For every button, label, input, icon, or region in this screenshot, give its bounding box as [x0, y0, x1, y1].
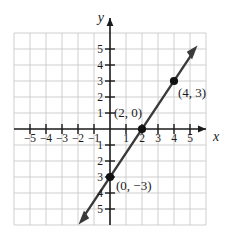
y-tick-label: 4	[97, 187, 103, 199]
y-tick-label: 3	[97, 171, 103, 183]
x-tick-label: 4	[171, 132, 177, 144]
x-tick-label: −3	[56, 132, 68, 144]
point-label-4-3: (4, 3)	[178, 85, 206, 100]
y-tick-label: 2	[97, 91, 103, 103]
point-0-neg3	[106, 173, 114, 181]
y-tick-label: 1	[97, 139, 103, 151]
point-4-3	[170, 77, 178, 85]
y-tick-label: 1	[97, 107, 103, 119]
graph-canvas: −5 −4 −3 −2 −1 1 2 3 4 5 5 4 3 2 1 1 2 3…	[0, 0, 236, 242]
point-label-2-0: (2, 0)	[114, 105, 142, 120]
y-tick-label: 5	[97, 203, 103, 215]
point-label-0-neg3: (0, −3)	[116, 178, 152, 193]
coordinate-plane-figure: −5 −4 −3 −2 −1 1 2 3 4 5 5 4 3 2 1 1 2 3…	[0, 0, 236, 242]
x-tick-label: 5	[187, 132, 193, 144]
x-tick-label: 1	[123, 132, 129, 144]
x-tick-label: −2	[72, 132, 84, 144]
y-axis-label: y	[96, 10, 105, 25]
x-axis-label: x	[212, 129, 220, 144]
x-tick-label: 3	[155, 132, 161, 144]
y-tick-label: 5	[97, 43, 103, 55]
y-tick-label: 2	[97, 155, 103, 167]
y-tick-labels-positive: 5 4 3 2 1	[97, 43, 103, 119]
x-tick-label: 2	[139, 132, 145, 144]
figure-background	[0, 0, 236, 242]
y-tick-label: 4	[97, 59, 103, 71]
y-tick-label: 3	[97, 75, 103, 87]
x-tick-label: −4	[40, 132, 52, 144]
x-tick-label: −5	[24, 132, 36, 144]
y-tick-labels-negative: 1 2 3 4 5	[97, 139, 103, 215]
